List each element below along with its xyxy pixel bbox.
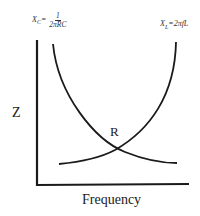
x-axis-label: Frequency (82, 193, 141, 207)
xl-curve (59, 42, 176, 164)
impedance-diagram (0, 0, 200, 216)
y-axis-label: Z (12, 106, 21, 120)
xc-formula: XC= 1 2πRC (32, 12, 67, 28)
xc-curve (53, 44, 177, 163)
x-axis (36, 184, 189, 185)
xl-formula: XL=2πfL (160, 20, 188, 30)
intersection-label: R (110, 125, 119, 138)
xc-fraction: 1 2πRC (48, 12, 67, 28)
